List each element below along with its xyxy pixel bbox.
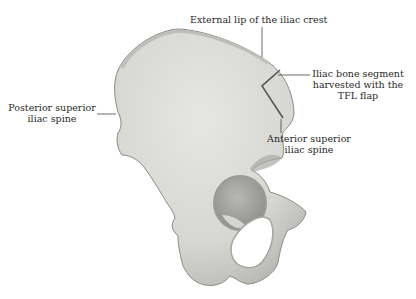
label-external-lip-iliac-crest: External lip of the iliac crest [190,14,327,25]
label-iliac-bone-segment: Iliac bone segment harvested with the TF… [308,68,408,101]
hip-bone-illustration [0,0,416,299]
segment-line-1: Iliac bone segment [308,68,408,79]
segment-line-2: harvested with the [308,79,408,90]
asis-line-1: Anterior superior [266,133,352,144]
asis-line-2: iliac spine [266,144,352,155]
psis-line-2: iliac spine [8,113,96,124]
label-posterior-superior-iliac-spine: Posterior superior iliac spine [8,102,96,124]
label-anterior-superior-iliac-spine: Anterior superior iliac spine [266,133,352,155]
anatomy-figure: External lip of the iliac crest Posterio… [0,0,416,299]
segment-line-3: TFL flap [308,90,408,101]
psis-line-1: Posterior superior [8,102,96,113]
